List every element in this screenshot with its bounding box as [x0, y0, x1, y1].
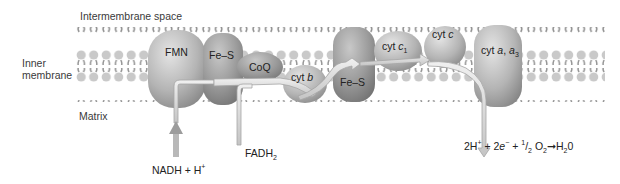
- inner-membrane-label-line2: membrane: [22, 70, 72, 81]
- cyt-c1-label: cyt c1: [382, 41, 408, 54]
- cyt-c-label: cyt c: [432, 29, 454, 40]
- coq-label: CoQ: [249, 62, 271, 73]
- electron-transport-diagram: [0, 0, 620, 184]
- nadh-label: NADH + H+: [152, 163, 205, 175]
- nadh-arrow: [169, 121, 183, 157]
- matrix-label: Matrix: [79, 111, 108, 122]
- water-formation-equation: 2H+ + 2e− + 1/2 O2➞H20: [464, 139, 573, 154]
- fmn-label: FMN: [165, 47, 188, 58]
- intermembrane-space-label: Intermembrane space: [80, 11, 182, 22]
- fe-s-1-label: Fe–S: [209, 50, 234, 61]
- fe-s-2-label: Fe–S: [340, 77, 365, 88]
- cyt-a-a3-label: cyt a, a3: [481, 45, 519, 58]
- inner-membrane-label-line1: Inner: [22, 58, 46, 69]
- cyt-b-label: cyt b: [291, 72, 313, 83]
- fadh2-label: FADH2: [245, 148, 277, 161]
- reaction-arrow-icon: ➞: [547, 140, 556, 152]
